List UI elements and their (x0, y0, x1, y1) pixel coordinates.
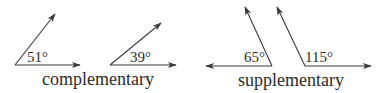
angle-65: 65° (206, 7, 272, 66)
angle-label: 39° (130, 49, 151, 65)
angle-label: 115° (305, 49, 333, 65)
angle-39: 39° (110, 23, 176, 65)
angle-pairs-diagram: 51° 39° complementary 65° 115° supplemen… (0, 0, 383, 93)
caption-supplementary: supplementary (238, 70, 344, 90)
complementary-group: 51° 39° complementary (15, 14, 176, 89)
diagram-canvas: 51° 39° complementary 65° 115° supplemen… (0, 0, 383, 93)
angle-label: 51° (27, 49, 48, 65)
angle-115: 115° (277, 7, 371, 66)
supplementary-group: 65° 115° supplementary (206, 7, 371, 90)
angle-label: 65° (244, 49, 265, 65)
slanted-ray (277, 7, 305, 66)
angle-51: 51° (15, 14, 80, 65)
caption-complementary: complementary (42, 69, 154, 89)
